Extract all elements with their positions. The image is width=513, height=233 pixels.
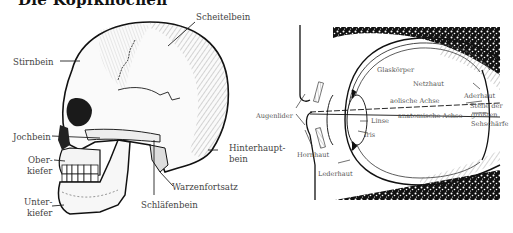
label-stirnbein: Stirnbein bbox=[13, 57, 54, 67]
label-unterkiefer-line1: Unter- bbox=[24, 197, 52, 207]
label-warzenfortsatz: Warzenfortsatz bbox=[172, 182, 238, 192]
label-aderhaut: Aderhaut bbox=[464, 92, 495, 100]
label-netzhaut: Netzhaut bbox=[413, 80, 444, 88]
label-lederhaut: Lederhaut bbox=[318, 170, 353, 178]
label-jochbein: Jochbein bbox=[13, 132, 51, 142]
label-optische-achse: aolische Achse bbox=[390, 97, 439, 105]
label-schlaefenbein: Schläfenbein bbox=[141, 200, 198, 210]
label-oberkiefer-line1: Ober- bbox=[28, 155, 53, 165]
label-stelle-line2: größten bbox=[471, 111, 498, 119]
label-stelle-line1: Stelle der bbox=[470, 102, 503, 110]
label-scheitelbein: Scheitelbein bbox=[196, 12, 250, 22]
label-unterkiefer-line2: kiefer bbox=[27, 208, 52, 218]
label-linse: Linse bbox=[371, 117, 389, 125]
label-hinterhauptbein-line1: Hinterhaupt- bbox=[229, 143, 285, 153]
label-anatomische-achse: anatomische Achse bbox=[398, 112, 462, 120]
label-glaskoerper: Glaskörper bbox=[377, 66, 414, 74]
label-stelle-line3: Sehschärfe bbox=[471, 120, 508, 128]
label-oberkiefer-line2: kiefer bbox=[27, 166, 52, 176]
label-hinterhauptbein-line2: bein bbox=[229, 154, 248, 164]
label-augenlider: Augenlider bbox=[256, 112, 293, 120]
label-iris: Iris bbox=[364, 131, 375, 139]
label-hornhaut: Hornhaut bbox=[297, 151, 329, 159]
